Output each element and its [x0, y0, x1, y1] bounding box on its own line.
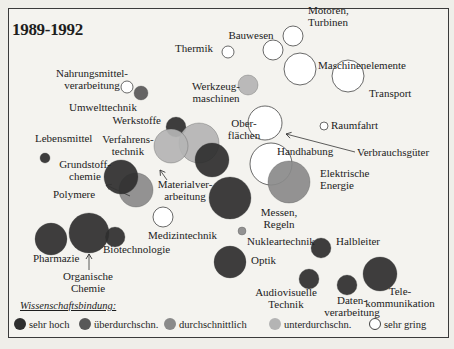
bubble-label: Maschinenelemente — [318, 59, 406, 71]
bubble-label: Thermik — [175, 42, 213, 54]
bubble-label: Optik — [251, 254, 277, 266]
legend-item: unterdurchschn. — [269, 318, 351, 330]
bubble-elektrische-energie — [268, 161, 310, 203]
bubble-label: Medizintechnik — [148, 229, 218, 241]
bubble-label: Bauwesen — [228, 29, 274, 41]
bubble-werkzeugmaschinen — [238, 75, 258, 95]
bubble-optik — [214, 246, 246, 278]
bubble-label: Umwelttechnik — [69, 101, 137, 113]
legend-item: durchschnittlich — [164, 318, 247, 330]
legend-swatch-icon — [369, 318, 381, 330]
bubble-label: Grundstoff-chemie — [59, 158, 111, 182]
bubble-label: Biotechnologie — [103, 243, 170, 255]
legend-swatch-icon — [79, 318, 91, 330]
bubble-lebensmittel — [40, 153, 50, 163]
bubble-label: Pharmazie — [33, 252, 80, 264]
bubble-label: ElektrischeEnergie — [320, 167, 370, 191]
legend-label: sehr gring — [384, 319, 426, 330]
bubble-label: Halbleiter — [336, 235, 380, 247]
legend-label: durchschnittlich — [179, 319, 247, 330]
bubble-label: AudiovisuelleTechnik — [255, 286, 317, 310]
legend-swatch-icon — [14, 318, 26, 330]
bubble-label: Handhabung — [277, 145, 334, 157]
legend-label: überdurchschn. — [94, 319, 158, 330]
bubble-nahrungsmittelverarbeitung — [121, 81, 133, 93]
bubble-label: Ober-flächen — [228, 117, 261, 141]
bubble-label: Nahrungsmittel-verarbeitung — [56, 67, 128, 91]
legend-swatch-icon — [269, 318, 281, 330]
bubble-verfahrenstechnik — [154, 129, 188, 163]
bubble-motoren-turbinen — [283, 26, 303, 46]
bubble-label: OrganischeChemie — [63, 270, 113, 294]
legend-title: Wissenschaftsbindung: — [20, 300, 116, 311]
legend-label: unterdurchschn. — [284, 319, 351, 330]
legend-swatch-icon — [164, 318, 176, 330]
bubble-umwelttechnik — [134, 86, 148, 100]
bubble-bauwesen — [263, 40, 283, 60]
bubble-label: Materialver-arbeitung — [158, 178, 213, 202]
bubble-label: Lebensmittel — [35, 132, 92, 144]
bubble-chart: Motoren,TurbinenBauwesenThermikMaschinen… — [0, 0, 454, 349]
bubble-pharmazie — [35, 223, 67, 255]
bubble-raumfahrt — [320, 122, 328, 130]
bubble-label: Verbrauchsgüter — [357, 146, 429, 158]
bubble-maschinenelemente — [284, 53, 316, 85]
bubble-medizintechnik — [153, 207, 173, 227]
bubble-label: Raumfahrt — [331, 119, 378, 131]
bubble-label: Nukleartechnik — [247, 235, 315, 247]
bubble-verbrauchsgüter — [195, 143, 229, 177]
legend-label: sehr hoch — [29, 319, 70, 330]
bubble-label: Werkstoffe — [113, 114, 162, 126]
bubble-label: Werkzeug-maschinen — [192, 80, 240, 104]
legend-item: überdurchschn. — [79, 318, 158, 330]
bubble-label: Motoren,Turbinen — [308, 4, 349, 28]
bubble-label: Verfahrens-technik — [102, 133, 154, 157]
bubble-label: Polymere — [53, 188, 95, 200]
bubble-datenverarbeitung — [337, 275, 357, 295]
bubble-messen-regeln — [209, 177, 251, 219]
bubble-label: Messen,Regeln — [261, 206, 298, 230]
bubble-label: Transport — [369, 87, 411, 99]
legend-item: sehr gring — [369, 318, 426, 330]
legend-item: sehr hoch — [14, 318, 70, 330]
bubble-nukleartechnik — [238, 227, 246, 235]
bubble-thermik — [222, 46, 234, 58]
